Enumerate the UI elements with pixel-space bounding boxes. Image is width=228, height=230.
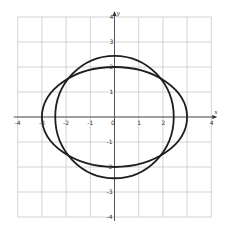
x-tick-label: -2 bbox=[63, 119, 69, 126]
y-tick-label: 3 bbox=[110, 38, 114, 45]
x-tick-label: -1 bbox=[87, 119, 93, 126]
x-tick-label: 4 bbox=[210, 119, 214, 126]
y-tick-label: -4 bbox=[107, 213, 113, 220]
y-tick-label: 2 bbox=[110, 63, 114, 70]
y-tick-label: -2 bbox=[107, 163, 113, 170]
y-tick-label: 1 bbox=[110, 88, 114, 95]
x-tick-label: 2 bbox=[161, 119, 165, 126]
coordinate-plane: xy -4-3-2-101244321-1-2-3-4 bbox=[0, 0, 228, 230]
y-tick-label: -1 bbox=[107, 138, 113, 145]
x-tick-label: 0 bbox=[111, 119, 115, 126]
x-tick-label: 1 bbox=[137, 119, 141, 126]
y-axis-label: y bbox=[116, 9, 121, 17]
y-tick-label: 4 bbox=[110, 13, 114, 20]
x-tick-label: -3 bbox=[39, 119, 45, 126]
y-tick-label: -3 bbox=[107, 188, 113, 195]
x-axis-label: x bbox=[214, 108, 218, 115]
x-tick-label: -4 bbox=[15, 119, 21, 126]
